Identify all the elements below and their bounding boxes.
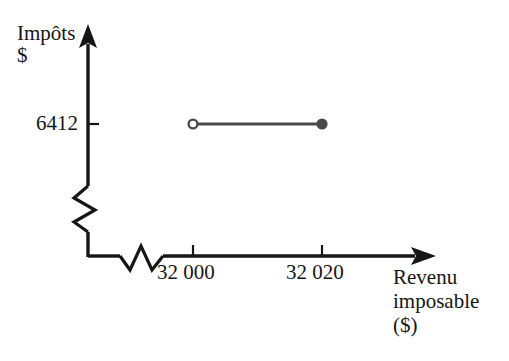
data-endpoint-closed-right [318, 120, 327, 129]
x-axis-title-line-1: Revenu [393, 266, 457, 290]
y-tick-label-6412: 6412 [36, 112, 78, 136]
x-tick-label-32020: 32 020 [286, 261, 344, 285]
data-endpoint-open-left [189, 120, 198, 129]
x-axis-title-line-3: ($) [393, 314, 418, 338]
x-axis-group [88, 246, 436, 270]
x-axis-title-line-2: imposable [393, 290, 479, 314]
data-series-group [189, 120, 327, 129]
tick-group [88, 124, 322, 256]
y-axis-break-zigzag [74, 186, 95, 232]
y-axis-unit-label: $ [17, 44, 28, 68]
tax-step-chart: Impôts $ 6412 32 000 32 020 Revenu impos… [0, 0, 509, 361]
y-axis-group [74, 24, 97, 257]
x-tick-label-32000: 32 000 [157, 261, 215, 285]
y-axis-title: Impôts [17, 22, 75, 46]
